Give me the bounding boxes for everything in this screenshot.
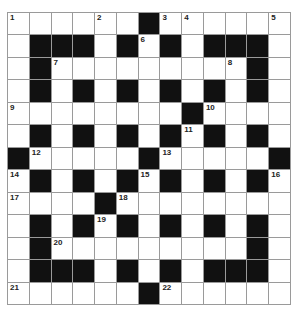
answer-cell[interactable] — [30, 193, 52, 215]
answer-cell[interactable] — [52, 283, 74, 305]
answer-cell[interactable] — [182, 238, 204, 260]
answer-cell[interactable] — [95, 148, 117, 170]
answer-cell[interactable] — [117, 13, 139, 35]
answer-cell[interactable] — [269, 58, 291, 80]
answer-cell[interactable]: 13 — [160, 148, 182, 170]
answer-cell[interactable] — [204, 148, 226, 170]
answer-cell[interactable] — [204, 58, 226, 80]
answer-cell[interactable] — [52, 215, 74, 237]
answer-cell[interactable] — [226, 170, 248, 192]
answer-cell[interactable]: 15 — [139, 170, 161, 192]
answer-cell[interactable] — [139, 260, 161, 282]
answer-cell[interactable] — [8, 58, 30, 80]
answer-cell[interactable]: 22 — [160, 283, 182, 305]
answer-cell[interactable] — [52, 170, 74, 192]
answer-cell[interactable] — [117, 283, 139, 305]
answer-cell[interactable] — [30, 13, 52, 35]
answer-cell[interactable] — [204, 193, 226, 215]
answer-cell[interactable] — [73, 283, 95, 305]
answer-cell[interactable]: 5 — [269, 13, 291, 35]
answer-cell[interactable] — [182, 35, 204, 57]
answer-cell[interactable] — [226, 13, 248, 35]
answer-cell[interactable]: 17 — [8, 193, 30, 215]
answer-cell[interactable] — [52, 193, 74, 215]
answer-cell[interactable] — [160, 103, 182, 125]
answer-cell[interactable] — [73, 238, 95, 260]
answer-cell[interactable] — [8, 125, 30, 147]
answer-cell[interactable] — [269, 125, 291, 147]
answer-cell[interactable] — [204, 238, 226, 260]
answer-cell[interactable] — [117, 238, 139, 260]
answer-cell[interactable] — [95, 35, 117, 57]
answer-cell[interactable]: 4 — [182, 13, 204, 35]
answer-cell[interactable] — [117, 148, 139, 170]
answer-cell[interactable] — [269, 215, 291, 237]
answer-cell[interactable] — [269, 103, 291, 125]
answer-cell[interactable] — [139, 58, 161, 80]
answer-cell[interactable] — [139, 80, 161, 102]
answer-cell[interactable] — [52, 13, 74, 35]
answer-cell[interactable]: 10 — [204, 103, 226, 125]
answer-cell[interactable] — [95, 103, 117, 125]
answer-cell[interactable] — [269, 193, 291, 215]
answer-cell[interactable] — [226, 238, 248, 260]
answer-cell[interactable] — [52, 80, 74, 102]
answer-cell[interactable] — [95, 283, 117, 305]
answer-cell[interactable] — [8, 215, 30, 237]
answer-cell[interactable] — [204, 283, 226, 305]
answer-cell[interactable] — [247, 193, 269, 215]
answer-cell[interactable] — [95, 58, 117, 80]
answer-cell[interactable] — [269, 283, 291, 305]
answer-cell[interactable] — [226, 125, 248, 147]
answer-cell[interactable] — [52, 125, 74, 147]
answer-cell[interactable] — [182, 58, 204, 80]
answer-cell[interactable]: 20 — [52, 238, 74, 260]
answer-cell[interactable]: 12 — [30, 148, 52, 170]
answer-cell[interactable] — [95, 170, 117, 192]
answer-cell[interactable] — [226, 148, 248, 170]
answer-cell[interactable] — [269, 238, 291, 260]
answer-cell[interactable] — [95, 260, 117, 282]
answer-cell[interactable] — [247, 148, 269, 170]
answer-cell[interactable] — [226, 283, 248, 305]
answer-cell[interactable] — [226, 103, 248, 125]
answer-cell[interactable]: 9 — [8, 103, 30, 125]
answer-cell[interactable]: 1 — [8, 13, 30, 35]
answer-cell[interactable] — [269, 260, 291, 282]
answer-cell[interactable] — [8, 238, 30, 260]
answer-cell[interactable] — [73, 193, 95, 215]
answer-cell[interactable] — [182, 283, 204, 305]
answer-cell[interactable] — [204, 13, 226, 35]
answer-cell[interactable] — [8, 260, 30, 282]
answer-cell[interactable] — [30, 103, 52, 125]
answer-cell[interactable] — [182, 193, 204, 215]
answer-cell[interactable] — [269, 35, 291, 57]
answer-cell[interactable] — [160, 193, 182, 215]
answer-cell[interactable] — [182, 170, 204, 192]
answer-cell[interactable] — [117, 58, 139, 80]
answer-cell[interactable] — [73, 58, 95, 80]
answer-cell[interactable] — [269, 80, 291, 102]
answer-cell[interactable] — [95, 80, 117, 102]
answer-cell[interactable] — [73, 148, 95, 170]
answer-cell[interactable] — [182, 260, 204, 282]
answer-cell[interactable] — [247, 283, 269, 305]
answer-cell[interactable] — [182, 215, 204, 237]
answer-cell[interactable] — [73, 13, 95, 35]
answer-cell[interactable] — [226, 80, 248, 102]
answer-cell[interactable] — [52, 148, 74, 170]
answer-cell[interactable] — [139, 103, 161, 125]
answer-cell[interactable] — [95, 238, 117, 260]
answer-cell[interactable] — [139, 125, 161, 147]
answer-cell[interactable]: 14 — [8, 170, 30, 192]
answer-cell[interactable]: 2 — [95, 13, 117, 35]
answer-cell[interactable]: 19 — [95, 215, 117, 237]
answer-cell[interactable] — [95, 125, 117, 147]
answer-cell[interactable]: 18 — [117, 193, 139, 215]
answer-cell[interactable] — [247, 13, 269, 35]
answer-cell[interactable] — [139, 215, 161, 237]
answer-cell[interactable] — [73, 103, 95, 125]
answer-cell[interactable] — [8, 35, 30, 57]
answer-cell[interactable] — [247, 103, 269, 125]
answer-cell[interactable]: 6 — [139, 35, 161, 57]
